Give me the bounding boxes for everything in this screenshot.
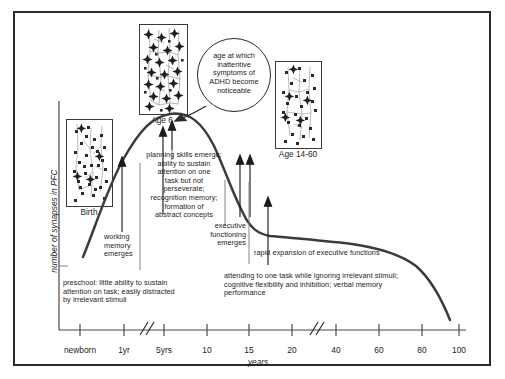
micrograph-age6-svg (140, 25, 187, 114)
annotation-working-memory: working memory emerges (104, 233, 140, 259)
annotation-executive-functioning: executive functioning emerges (186, 222, 246, 248)
annotation-preschool: preschool: little ability to sustain att… (63, 279, 223, 305)
micrograph-panel-age14-60 (275, 61, 322, 149)
annotation-planning-skills: planning skills emerge; ability to susta… (142, 151, 226, 220)
annotation-attending: attending to one task while ignoring irr… (224, 272, 434, 298)
micrograph-caption-age6: Age 6 (102, 115, 222, 125)
y-axis-label: number of synapses in PFC (49, 136, 59, 306)
x-axis-label: years (228, 358, 288, 367)
micrograph-birth-svg (67, 120, 112, 206)
micrograph-caption-birth: Birth (29, 207, 149, 217)
annotation-rapid-expansion: rapid expansion of executive functions (254, 249, 429, 258)
micrograph-age14-60-svg (276, 62, 321, 148)
adhd-callout-text: age at which inattentive symptoms of ADH… (199, 52, 269, 96)
micrograph-panel-birth (66, 119, 113, 207)
micrograph-caption-age14-60: Age 14-60 (238, 149, 358, 159)
x-tick-label-100: 100 (431, 345, 487, 355)
micrograph-panel-age6 (139, 24, 188, 115)
synapse-density-figure: Birth (0, 0, 505, 379)
